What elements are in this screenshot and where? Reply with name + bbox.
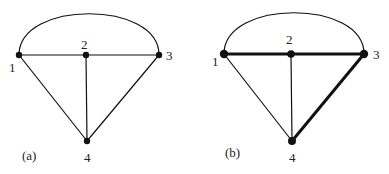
figure-b: 1 2 3 4 (b) xyxy=(212,13,380,165)
graph-diagram: 1 2 3 4 (a) 1 2 3 4 (b) xyxy=(0,0,389,174)
edge-3-4-bold xyxy=(292,54,364,141)
node-1 xyxy=(220,50,228,58)
node-3 xyxy=(156,52,162,58)
figure-caption-b: (b) xyxy=(225,145,240,160)
node-label-3: 3 xyxy=(373,47,380,62)
node-label-1: 1 xyxy=(212,54,219,69)
node-label-1: 1 xyxy=(9,60,16,75)
edge-1-3-curved xyxy=(19,14,159,55)
node-label-4: 4 xyxy=(84,150,91,165)
node-2 xyxy=(83,52,89,58)
edge-1-4 xyxy=(224,54,292,141)
edge-3-4 xyxy=(87,55,159,141)
node-2 xyxy=(287,50,295,58)
node-label-3: 3 xyxy=(166,48,173,63)
edge-2-4 xyxy=(86,55,87,141)
node-label-2: 2 xyxy=(286,32,293,47)
node-1 xyxy=(16,52,22,58)
node-3 xyxy=(360,50,368,58)
edge-2-4 xyxy=(291,54,292,141)
node-4 xyxy=(84,138,90,144)
edge-1-4 xyxy=(19,55,87,141)
figure-caption-a: (a) xyxy=(22,148,36,163)
node-label-2: 2 xyxy=(81,37,88,52)
edge-1-3-curved xyxy=(224,13,364,54)
node-label-4: 4 xyxy=(289,150,296,165)
figure-a: 1 2 3 4 (a) xyxy=(9,14,173,165)
node-4 xyxy=(288,137,296,145)
